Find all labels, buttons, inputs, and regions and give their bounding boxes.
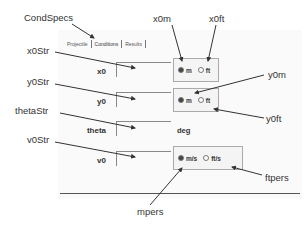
tab-conditions[interactable]: Conditions [92, 40, 123, 48]
radio-unselected-icon [198, 97, 204, 103]
radio-selected-icon [178, 97, 184, 103]
radio-selected-icon [178, 67, 184, 73]
y0-input[interactable] [116, 92, 171, 107]
callout-y0str: y0Str [27, 76, 49, 87]
callout-y0m: y0m [268, 69, 286, 80]
y0-unit-group: m ft [173, 88, 219, 112]
y0-label: y0 [76, 97, 106, 106]
x0-unit-group: m ft [173, 58, 219, 82]
x0-ft-radio[interactable]: ft [198, 67, 210, 74]
x0-m-radio[interactable]: m [178, 67, 192, 74]
theta-input[interactable] [116, 121, 171, 136]
callout-x0m: x0m [153, 13, 171, 24]
callout-v0str: v0Str [27, 134, 49, 145]
callout-mpers: mpers [137, 206, 163, 217]
tab-projectile[interactable]: Projectile [64, 40, 92, 48]
form-divider [60, 193, 300, 194]
callout-thetastr: thetaStr [15, 105, 48, 116]
theta-label: theta [76, 126, 106, 135]
callout-condspecs: CondSpecs [24, 12, 73, 23]
v0-label: v0 [76, 156, 106, 165]
radio-unselected-icon [203, 155, 209, 161]
tab-bar: Projectile Conditions Results [64, 38, 146, 50]
v0-mps-radio[interactable]: m/s [178, 155, 197, 162]
v0-unit-group: m/s ft/s [173, 146, 243, 170]
callout-ftpers: ftpers [265, 172, 289, 183]
tab-results[interactable]: Results [122, 40, 146, 48]
radio-selected-icon [178, 155, 184, 161]
y0-ft-radio[interactable]: ft [198, 97, 210, 104]
theta-unit-label: deg [177, 126, 190, 135]
x0-input[interactable] [116, 62, 171, 77]
v0-ftps-radio[interactable]: ft/s [203, 155, 221, 162]
x0-label: x0 [76, 67, 106, 76]
radio-unselected-icon [198, 67, 204, 73]
callout-y0ft: y0ft [266, 113, 281, 124]
callout-x0ft: x0ft [209, 13, 224, 24]
callout-x0str: x0Str [27, 45, 49, 56]
v0-input[interactable] [116, 151, 171, 166]
y0-m-radio[interactable]: m [178, 97, 192, 104]
